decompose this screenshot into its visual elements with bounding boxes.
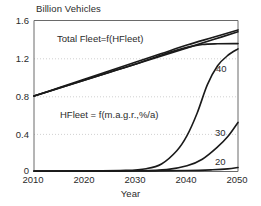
gridlines [34, 59, 238, 135]
series-label-40: 40 [216, 63, 227, 74]
annotation-total-fleet: Total Fleet=f(HFleet) [57, 33, 143, 44]
plot-area [0, 0, 261, 206]
chart-figure: Billion Vehicles 1.6 1.2 0.8 0.4 0 2010 … [0, 0, 261, 206]
series-label-20: 20 [215, 156, 226, 167]
series-line-hfleet-30-a [34, 122, 238, 171]
series-line-total-fleet-saturating [34, 44, 238, 96]
series-label-30: 30 [215, 127, 226, 138]
annotation-hfleet: HFleet = f(m.a.g.r.,%/a) [60, 109, 158, 120]
data-series-group [34, 30, 238, 171]
